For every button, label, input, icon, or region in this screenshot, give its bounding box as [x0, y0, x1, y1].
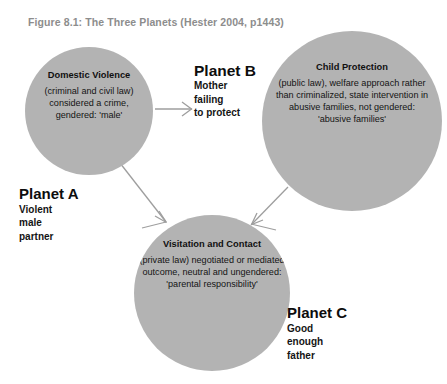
planet-label-b-name: Planet B: [194, 62, 256, 79]
arrow-domestic-violence-to-visitation: [120, 163, 167, 228]
planet-circle-body-domestic-violence: (criminal and civil law) considered a cr…: [25, 85, 153, 121]
planet-circle-child-protection-content: Child Protection (public law), welfare a…: [262, 62, 442, 125]
planet-circle-title-domestic-violence: Domestic Violence: [25, 70, 153, 82]
figure-three-planets-diagram: Figure 8.1: The Three Planets (Hester 20…: [0, 0, 447, 384]
planet-circle-title-visitation-contact: Visitation and Contact: [134, 239, 290, 251]
planet-label-c: Planet C Good enough father: [287, 305, 347, 362]
planet-label-b-description: Mother failing to protect: [194, 79, 256, 119]
planet-circle-visitation-contact-content: Visitation and Contact (private law) neg…: [134, 239, 290, 290]
figure-caption: Figure 8.1: The Three Planets (Hester 20…: [28, 16, 284, 28]
arrow-domestic-violence-to-child-protection: [155, 102, 192, 116]
planet-circle-title-child-protection: Child Protection: [262, 62, 442, 74]
planet-label-a-description: Violent male partner: [19, 203, 78, 243]
planet-label-c-name: Planet C: [287, 305, 347, 322]
planet-circle-child-protection: Child Protection (public law), welfare a…: [262, 31, 442, 211]
planet-circle-domestic-violence-content: Domestic Violence (criminal and civil la…: [25, 70, 153, 121]
planet-circle-body-child-protection: (public law), welfare approach rather th…: [262, 77, 442, 125]
planet-label-b: Planet B Mother failing to protect: [194, 62, 256, 120]
planet-circle-visitation-contact: Visitation and Contact (private law) neg…: [134, 215, 290, 371]
planet-label-a-name: Planet A: [19, 186, 78, 203]
arrow-child-protection-to-visitation: [251, 187, 288, 230]
planet-label-a: Planet A Violent male partner: [19, 186, 78, 243]
planet-circle-body-visitation-contact: (private law) negotiated or mediated out…: [134, 254, 290, 290]
planet-label-c-description: Good enough father: [287, 322, 347, 362]
planet-circle-domestic-violence: Domestic Violence (criminal and civil la…: [25, 47, 153, 175]
